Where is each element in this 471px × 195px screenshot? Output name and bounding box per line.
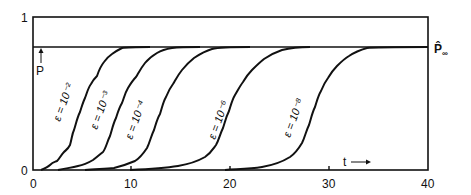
curve-label-1e-2: ε = 10⁻²: [51, 81, 76, 122]
curve-label-1e-4: ε = 10⁻⁴: [123, 98, 148, 140]
asymptote-subscript: ∞: [442, 49, 448, 58]
chart-canvas: 1 0 0 10 20 30 40 P t P̂ ∞ ε = 10⁻² ε = …: [0, 0, 471, 195]
curve-label-1e-8: ε = 10⁻⁸: [281, 96, 306, 138]
x-axis-label: t: [343, 155, 347, 169]
asymptote-label: P̂: [434, 41, 442, 56]
x-tick-30: 30: [322, 177, 336, 191]
x-tick-10: 10: [124, 177, 138, 191]
x-tick-20: 20: [223, 177, 237, 191]
y-tick-1: 1: [21, 11, 28, 25]
plot-frame: [33, 17, 428, 170]
x-tick-0: 0: [30, 177, 37, 191]
curve-eps-1e-3: [58, 47, 200, 170]
x-axis-arrow-icon: [351, 160, 371, 165]
curve-label-1e-3: ε = 10⁻³: [88, 89, 113, 130]
x-tick-40: 40: [421, 177, 435, 191]
curve-label-1e-6: ε = 10⁻⁶: [206, 98, 231, 140]
y-tick-0: 0: [21, 164, 28, 178]
y-axis-arrow-icon: [39, 48, 44, 63]
y-axis-label: P: [36, 64, 44, 78]
